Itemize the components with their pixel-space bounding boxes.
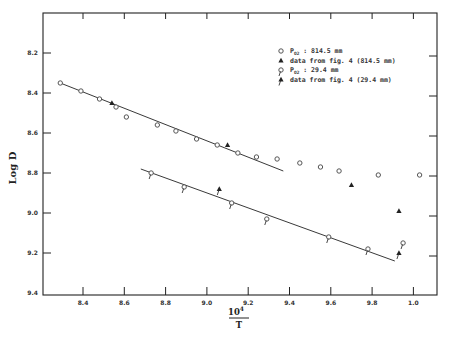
fit-line [141, 169, 395, 261]
data-point-open-circle-flag [229, 201, 233, 209]
fit-line [60, 83, 283, 171]
data-point-open-circle [298, 161, 302, 165]
legend-item: PO2 : 29.4 mm [279, 66, 339, 76]
x-tick-label: 9.6 [325, 299, 336, 306]
x-tick-label: 8.8 [160, 299, 171, 306]
data-point-filled-triangle-flag [396, 250, 401, 259]
data-point-open-circle [155, 123, 159, 127]
data-point-open-circle [114, 105, 118, 109]
chart: 8.28.48.68.89.09.29.4 8.48.68.89.09.29.4… [0, 0, 452, 338]
data-point-filled-triangle-flag [278, 77, 283, 86]
x-axis-title: 104 T [228, 305, 249, 330]
data-point-open-circle-flag [182, 185, 186, 193]
data-point-filled-triangle [349, 182, 354, 187]
svg-text:104: 104 [228, 305, 244, 317]
data-point-open-circle [194, 137, 198, 141]
data-point-open-circle [236, 151, 240, 155]
svg-text:data from fig. 4 (814.5 mm): data from fig. 4 (814.5 mm) [290, 57, 396, 65]
data-point-open-circle-flag [366, 247, 370, 255]
data-point-filled-triangle [278, 58, 283, 63]
y-tick-label: 8.6 [27, 129, 38, 136]
svg-text:PO2 : 814.5 mm: PO2 : 814.5 mm [290, 47, 342, 56]
data-point-open-circle [79, 89, 83, 93]
data-point-open-circle [58, 81, 62, 85]
data-point-open-circle [215, 143, 219, 147]
data-point-open-circle [254, 155, 258, 159]
y-tick-label: 8.8 [27, 169, 38, 176]
svg-text:data from fig. 4 (29.4 mm): data from fig. 4 (29.4 mm) [290, 76, 392, 84]
legend: PO2 : 814.5 mmdata from fig. 4 (814.5 mm… [278, 47, 395, 86]
data-point-open-circle-flag [149, 171, 153, 179]
data-point-open-circle [417, 173, 421, 177]
data-points [58, 81, 422, 259]
x-tick-label: 8.6 [119, 299, 130, 306]
data-point-open-circle-flag [401, 241, 405, 249]
data-point-open-circle-flag [327, 235, 331, 243]
y-tick-label: 9.4 [27, 289, 38, 296]
data-point-open-circle [279, 49, 283, 53]
data-point-open-circle [124, 115, 128, 119]
data-point-filled-triangle [225, 142, 230, 147]
x-tick-label: 1.0 [408, 299, 419, 306]
fit-lines [60, 83, 395, 261]
data-point-open-circle [318, 165, 322, 169]
x-tick-label: 8.4 [78, 299, 89, 306]
data-point-open-circle [337, 169, 341, 173]
y-axis-title: Log D [7, 151, 18, 184]
data-point-open-circle-flag [265, 217, 269, 225]
data-point-open-circle [174, 129, 178, 133]
y-tick-label: 9.0 [27, 209, 38, 216]
x-tick-label: 9.2 [243, 299, 254, 306]
legend-item: PO2 : 814.5 mm [279, 47, 343, 56]
x-tick-label: 9.4 [284, 299, 295, 306]
legend-item: data from fig. 4 (29.4 mm) [278, 76, 391, 86]
x-tick-label: 9.0 [202, 299, 213, 306]
svg-text:T: T [236, 320, 243, 330]
data-point-filled-triangle-flag [217, 186, 222, 195]
legend-item: data from fig. 4 (814.5 mm) [278, 57, 395, 65]
y-axis-ticks: 8.28.48.68.89.09.29.4 [27, 49, 437, 296]
y-tick-label: 9.2 [27, 249, 38, 256]
data-point-open-circle [97, 97, 101, 101]
data-point-open-circle [376, 173, 380, 177]
x-tick-label: 9.8 [367, 299, 378, 306]
y-tick-label: 8.2 [27, 49, 38, 56]
data-point-filled-triangle [396, 208, 401, 213]
y-tick-label: 8.4 [27, 89, 38, 96]
svg-text:PO2 : 29.4 mm: PO2 : 29.4 mm [290, 66, 339, 75]
data-point-open-circle-flag [279, 68, 283, 76]
data-point-open-circle [275, 157, 279, 161]
